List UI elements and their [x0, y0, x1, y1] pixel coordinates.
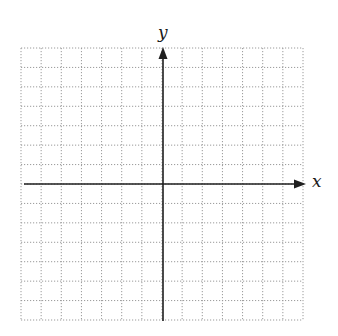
x-axis-label: x [312, 173, 322, 190]
coordinate-plane: x y [0, 0, 338, 336]
axes [24, 47, 306, 321]
x-axis-arrowhead-icon [294, 180, 306, 189]
y-axis-arrowhead-icon [159, 47, 168, 59]
y-axis-label: y [158, 24, 168, 41]
coordinate-grid [0, 0, 338, 336]
